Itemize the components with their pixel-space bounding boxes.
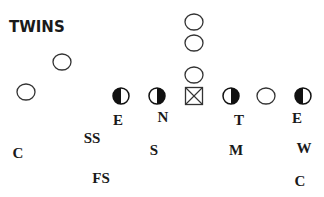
offense-player-circle-icon xyxy=(185,67,203,83)
offense-player-circle-icon xyxy=(185,35,203,51)
defender-label: E xyxy=(113,112,123,129)
defender-label: E xyxy=(292,110,302,127)
defensive-lineman-half-circle-icon xyxy=(149,88,165,104)
defensive-lineman-half-circle-icon xyxy=(113,88,129,104)
defender-label: SS xyxy=(84,130,101,147)
defensive-lineman-half-circle-icon xyxy=(223,88,239,104)
defender-label: S xyxy=(150,142,158,159)
defensive-lineman-half-circle-icon xyxy=(295,88,311,104)
defender-label: N xyxy=(158,109,169,126)
center-square-x-icon xyxy=(186,88,203,105)
defender-label: FS xyxy=(92,170,110,187)
offense-player-circle-icon xyxy=(257,88,275,104)
defender-label: M xyxy=(229,142,243,159)
offense-player-circle-icon xyxy=(17,84,35,100)
formation-diagram xyxy=(0,0,324,197)
defender-label: C xyxy=(295,173,306,190)
offense-player-circle-icon xyxy=(185,14,203,30)
defender-label: T xyxy=(234,112,244,129)
defender-label: W xyxy=(297,140,312,157)
defender-label: C xyxy=(13,145,24,162)
offense-player-circle-icon xyxy=(53,54,71,70)
